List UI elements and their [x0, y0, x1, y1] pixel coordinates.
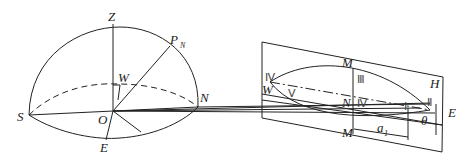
label-m-bottom: M	[341, 125, 354, 140]
ray-4	[198, 104, 430, 107]
roman-iv-left: Ⅳ	[265, 71, 276, 83]
label-h: H	[429, 76, 440, 91]
label-a: a	[377, 120, 384, 135]
label-s: S	[17, 109, 24, 124]
label-p-sub: N	[179, 41, 186, 50]
label-o: O	[98, 112, 108, 127]
meridian-front	[113, 111, 141, 132]
label-z: Z	[108, 9, 116, 24]
roman-ii: Ⅱ	[427, 96, 432, 108]
roman-iv-center: Ⅳ	[357, 97, 368, 109]
label-w-left: W	[118, 70, 130, 85]
label-n-left: N	[199, 90, 210, 105]
label-e-right: E	[447, 105, 456, 120]
label-theta: θ	[421, 113, 428, 128]
west-marker	[113, 85, 120, 100]
roman-iii: Ⅲ	[357, 73, 365, 85]
diagram-canvas: Z P N W N S O E M M N W H E a 1 θ Ⅳ Ⅴ Ⅲ …	[0, 0, 466, 162]
roman-v: Ⅴ	[288, 87, 296, 99]
label-e-left: E	[99, 140, 108, 155]
label-w-right: W	[262, 82, 274, 97]
label-m-top: M	[341, 55, 354, 70]
roman-i: Ⅰ	[404, 100, 407, 112]
label-p: P	[169, 32, 178, 47]
label-a-sub: 1	[384, 129, 388, 138]
label-n-center: N	[341, 95, 352, 110]
ray-3	[113, 111, 435, 113]
